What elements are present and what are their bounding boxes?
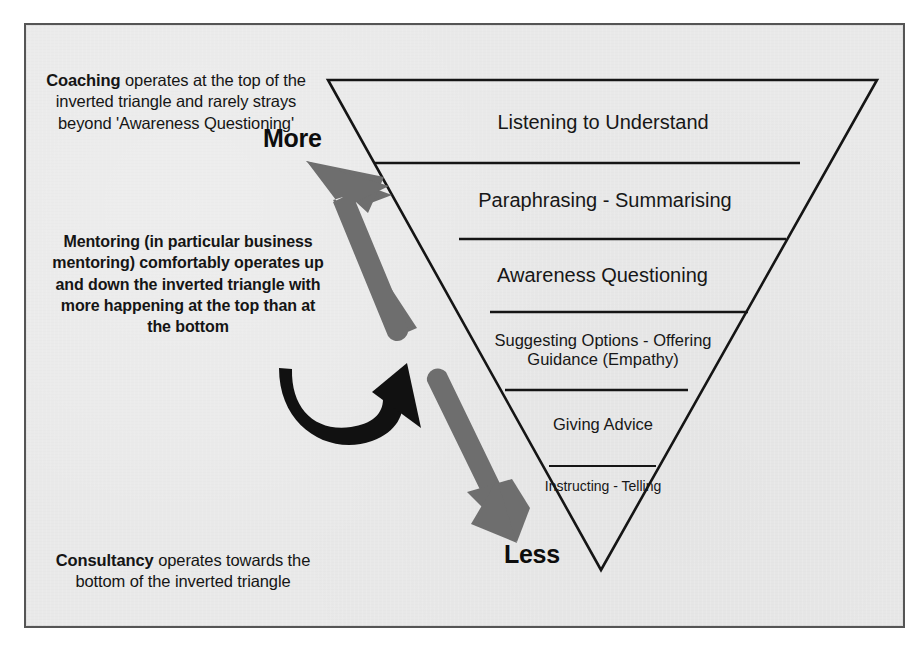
triangle-tier-2-label: Paraphrasing - Summarising — [430, 189, 780, 212]
note-mentoring: Mentoring (in particular business mentor… — [52, 231, 324, 337]
scale-label-more: More — [263, 124, 322, 153]
triangle-tier-4-label: Suggesting Options - Offering Guidance (… — [463, 331, 743, 369]
diagram-canvas: Coaching operates at the top of the inve… — [0, 0, 922, 662]
triangle-tier-6-label: Instructing - Telling — [523, 478, 683, 494]
note-consultancy-lead: Consultancy — [56, 551, 154, 569]
triangle-tier-5-label: Giving Advice — [490, 415, 716, 434]
note-consultancy: Consultancy operates towards the bottom … — [40, 550, 326, 593]
note-coaching-lead: Coaching — [46, 71, 120, 89]
scale-label-less: Less — [504, 540, 560, 569]
triangle-tier-3-label: Awareness Questioning — [440, 264, 765, 287]
triangle-tier-1-label: Listening to Understand — [413, 111, 793, 134]
note-mentoring-text: Mentoring (in particular business mentor… — [52, 233, 323, 335]
